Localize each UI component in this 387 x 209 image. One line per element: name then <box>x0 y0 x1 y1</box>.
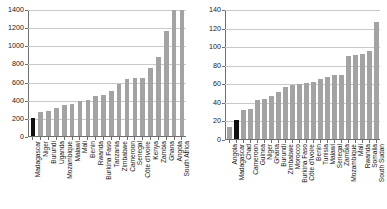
x-tick-mark <box>166 137 167 140</box>
x-tick-mark <box>362 140 363 143</box>
bar-slot <box>60 10 68 136</box>
bar <box>339 75 343 140</box>
y-tick-mark <box>222 29 225 30</box>
x-tick-mark <box>127 137 128 140</box>
y-tick-mark <box>222 103 225 104</box>
x-tick-mark <box>150 137 151 140</box>
x-tick-mark <box>271 140 272 143</box>
bar-slot <box>107 10 115 136</box>
y-tick-label: 100 <box>209 44 221 51</box>
x-label-slot: Côte d'Ivoire <box>303 144 310 206</box>
x-label-slot: Tunisia <box>317 144 324 206</box>
x-label-slot: Burkina Faso <box>100 141 108 203</box>
bar-slot <box>261 10 268 139</box>
x-label-slot: Malawi <box>324 144 331 206</box>
x-tick-slot <box>275 140 282 143</box>
bar <box>164 31 169 136</box>
x-axis-ticks-right <box>226 140 380 143</box>
y-tick-label: 1400 <box>8 6 24 13</box>
x-tick-mark <box>306 140 307 143</box>
y-tick-label: 0 <box>217 136 221 143</box>
x-label-slot: Niger <box>37 141 45 203</box>
x-tick-slot <box>303 140 310 143</box>
x-label-slot: Madagascar <box>29 141 37 203</box>
y-tick-label: 40 <box>213 99 221 106</box>
x-tick-mark <box>181 137 182 140</box>
x-label-slot: Morocco <box>289 144 296 206</box>
x-tick-mark <box>355 140 356 143</box>
y-tick-mark <box>25 83 28 84</box>
bar-slot <box>254 10 261 139</box>
bar <box>304 83 308 139</box>
bar <box>140 78 145 136</box>
x-tick-mark <box>327 140 328 143</box>
bar-series-right <box>226 10 380 139</box>
y-tick-mark <box>25 119 28 120</box>
x-label-slot: Rwanda <box>359 144 366 206</box>
bar <box>93 96 98 137</box>
x-label-slot: Angola <box>170 141 178 203</box>
x-label-slot: Mozambique <box>345 144 352 206</box>
x-label-slot: Mozambique <box>60 141 68 203</box>
bar <box>262 99 266 139</box>
bar <box>180 10 185 136</box>
y-tick-label: 20 <box>213 118 221 125</box>
x-tick-slot <box>226 140 233 143</box>
y-tick-label: 120 <box>209 25 221 32</box>
x-tick-slot <box>352 140 359 143</box>
x-tick-slot <box>233 140 240 143</box>
bar-slot <box>178 10 186 136</box>
bar-slot <box>373 10 380 139</box>
x-tick-slot <box>115 137 123 140</box>
bar <box>283 87 287 139</box>
bar-slot <box>352 10 359 139</box>
y-tick-label: 600 <box>12 79 24 86</box>
x-tick-mark <box>320 140 321 143</box>
bar-slot <box>359 10 366 139</box>
x-tick-mark <box>174 137 175 140</box>
bar-slot <box>331 10 338 139</box>
bar-slot <box>296 10 303 139</box>
bar-slot <box>317 10 324 139</box>
bar-slot <box>53 10 61 136</box>
x-label-slot: Zambia <box>155 141 163 203</box>
x-label-slot: Zimbabwe <box>115 141 123 203</box>
x-tick-slot <box>84 137 92 140</box>
bar <box>227 127 231 139</box>
x-label-slot: Zambia <box>338 144 345 206</box>
bar <box>109 91 114 136</box>
x-tick-label: South Africa <box>184 141 191 177</box>
x-label-slot: Côte d'Ivoire <box>139 141 147 203</box>
x-tick-slot <box>162 137 170 140</box>
x-label-slot: Somalia <box>366 144 373 206</box>
bar-slot <box>366 10 373 139</box>
x-tick-mark <box>103 137 104 140</box>
bar <box>255 100 259 139</box>
x-tick-mark <box>229 140 230 143</box>
bar <box>332 75 336 139</box>
bar-slot <box>240 10 247 139</box>
bar <box>290 85 294 139</box>
x-tick-slot <box>60 137 68 140</box>
bar-series-left <box>29 10 186 136</box>
x-tick-slot <box>131 137 139 140</box>
x-tick-mark <box>292 140 293 143</box>
x-label-slot: Mali <box>352 144 359 206</box>
bar <box>46 111 51 136</box>
y-tick-mark <box>25 46 28 47</box>
x-tick-slot <box>289 140 296 143</box>
bar <box>62 105 67 136</box>
x-label-slot: Ghana <box>268 144 275 206</box>
x-tick-slot <box>147 137 155 140</box>
bar-slot <box>139 10 147 136</box>
bar-slot <box>275 10 282 139</box>
bar-slot <box>247 10 254 139</box>
bar-slot <box>131 10 139 136</box>
x-label-slot: Senegal <box>331 144 338 206</box>
x-tick-slot <box>247 140 254 143</box>
bar <box>101 95 106 136</box>
bar-slot <box>147 10 155 136</box>
x-tick-mark <box>48 137 49 140</box>
y-tick-mark <box>222 47 225 48</box>
y-tick-mark <box>222 66 225 67</box>
